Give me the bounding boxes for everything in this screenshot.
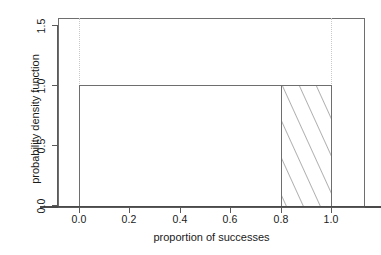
y-axis-title: probability density function: [29, 29, 41, 209]
y-tick-0: [52, 205, 57, 206]
x-tick-label-1: 0.2: [121, 213, 136, 225]
x-tick-label-2: 0.4: [172, 213, 187, 225]
y-tick-1: [52, 145, 57, 146]
x-tick-label-0: 0.0: [71, 213, 86, 225]
x-tick-label-4: 0.8: [273, 213, 288, 225]
figure-canvas: 0.0 0.2 0.4 0.6 0.8 1.0 proportion of su…: [0, 0, 381, 255]
x-axis-title: proportion of successes: [58, 231, 365, 243]
x-tick-label-5: 1.0: [323, 213, 338, 225]
y-tick-3: [52, 25, 57, 26]
y-axis-line: [57, 25, 58, 206]
plot-area: [58, 18, 365, 208]
hatch-pattern-icon: [282, 86, 331, 207]
y-tick-2: [52, 85, 57, 86]
x-tick-label-3: 0.6: [222, 213, 237, 225]
tail-area-hatched: [281, 85, 332, 208]
x-axis-line: [58, 207, 365, 208]
